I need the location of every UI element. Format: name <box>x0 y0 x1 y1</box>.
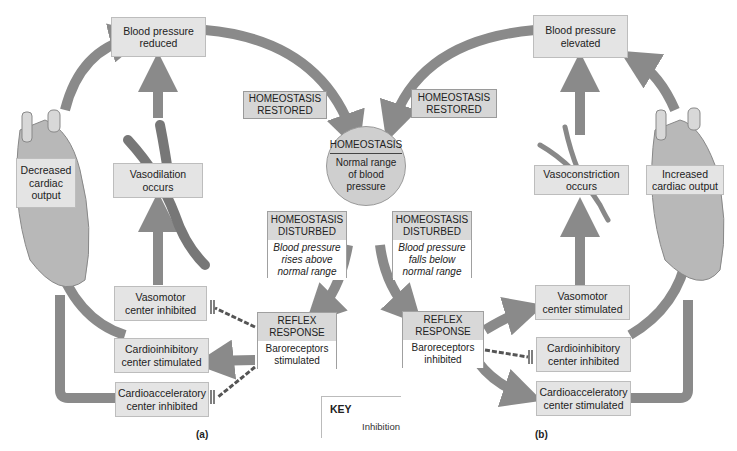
homeostasis-disturbed-b: HOMEOSTASIS DISTURBED Blood pressure fal… <box>392 211 472 278</box>
vasomotor-center-stimulated: Vasomotor center stimulated <box>535 285 630 320</box>
cardioinhibitory-center-inhibited: Cardioinhibitory center inhibited <box>536 337 631 372</box>
homeostasis-restored-right: HOMEOSTASIS RESTORED <box>411 89 497 118</box>
inhibit-line-vasomotor-a <box>215 308 255 327</box>
homeostasis-diagram: Blood pressure reduced Decreased cardiac… <box>0 0 737 451</box>
key-legend: KEY Inhibition <box>321 396 401 438</box>
increased-cardiac-output-box: Increased cardiac output <box>646 165 724 195</box>
panel-b-label: (b) <box>535 429 548 440</box>
arrow-bp-reduced-to-homeostasis <box>205 30 353 135</box>
panel-a-label: (a) <box>196 429 208 440</box>
reflex-response-a: REFLEX RESPONSE Baroreceptors stimulated <box>257 312 337 369</box>
homeostasis-disturbed-a: HOMEOSTASIS DISTURBED Blood pressure ris… <box>267 211 347 278</box>
inhibit-line-cardioaccel-a <box>218 367 255 397</box>
homeostasis-restored-left: HOMEOSTASIS RESTORED <box>243 91 327 119</box>
cardioaccelerator-center-stimulated: Cardioacceleratory center stimulated <box>536 381 631 416</box>
bp-elevated-box: Blood pressure elevated <box>533 15 628 58</box>
arrow-reflex-to-cardioinhibitory <box>212 360 255 362</box>
vasodilation-box: Vasodilation occurs <box>113 163 203 198</box>
decreased-cardiac-output-box: Decreased cardiac output <box>16 158 76 208</box>
vasoconstriction-box: Vasoconstriction occurs <box>534 165 629 195</box>
arrow-heart-to-bp-elevated <box>635 60 675 110</box>
inhibit-line-cardioinhibitory-b <box>485 350 528 357</box>
arrow-reflex-to-vasomotor <box>485 310 527 330</box>
vasomotor-center-inhibited: Vasomotor center inhibited <box>114 286 207 321</box>
arrow-reflex-to-cardioaccel <box>478 362 525 395</box>
cardioinhibitory-center-stimulated: Cardioinhibitory center stimulated <box>114 338 209 373</box>
inhibition-label: Inhibition <box>362 421 400 432</box>
bp-reduced-box: Blood pressure reduced <box>111 17 206 57</box>
reflex-response-b: REFLEX RESPONSE Baroreceptors inhibited <box>402 311 484 368</box>
homeostasis-circle: HOMEOSTASIS Normal range of blood pressu… <box>326 126 406 206</box>
cardioaccelerator-center-inhibited: Cardioacceleratory center inhibited <box>115 382 209 417</box>
